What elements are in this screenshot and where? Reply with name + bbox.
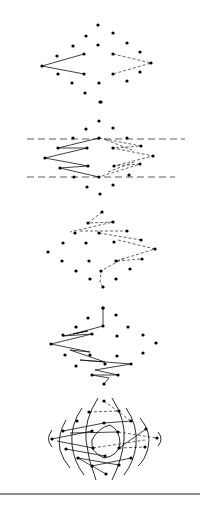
lattice-dot [97, 175, 100, 178]
lattice-dot [103, 454, 106, 457]
lattice-dot [155, 436, 158, 439]
curved-contour [59, 420, 70, 468]
lattice-dot [144, 427, 147, 430]
lattice-dot [90, 464, 93, 467]
solid-connector [70, 432, 118, 433]
lattice-dot [101, 285, 104, 288]
lattice-dot [82, 52, 85, 55]
lattice-dot [114, 313, 117, 316]
solid-connector [57, 441, 93, 448]
lattice-dot [63, 353, 66, 356]
solid-connector [92, 458, 131, 466]
lattice-dot [90, 373, 93, 376]
lattice-dot [141, 333, 144, 336]
lattice-dot [71, 44, 74, 47]
lattice-dot [127, 173, 130, 176]
solid-connector [66, 449, 105, 456]
panel-3 [46, 210, 156, 309]
lattice-dot [84, 241, 87, 244]
lattice-dot [114, 259, 117, 262]
lattice-dot [96, 23, 99, 26]
lattice-dot [128, 267, 131, 270]
dot-lattice-diagram [0, 0, 200, 505]
lattice-dot [91, 446, 94, 449]
diagram-figure [0, 0, 200, 505]
lattice-dot [111, 31, 114, 34]
solid-connector [51, 308, 131, 384]
panel-4 [49, 306, 157, 385]
lattice-dot [126, 325, 129, 328]
lattice-dot [111, 72, 114, 75]
lattice-dot [43, 156, 46, 159]
lattice-dot [125, 79, 128, 82]
lattice-dot [111, 183, 114, 186]
lattice-dot [111, 220, 114, 223]
lattice-dot [116, 373, 119, 376]
lattice-dot [88, 277, 91, 280]
solid-connector [104, 421, 131, 423]
lattice-dot [139, 144, 142, 147]
dashed-connector [116, 240, 155, 261]
dashed-connector [89, 411, 119, 412]
curved-contour [92, 425, 120, 458]
lattice-dot [85, 146, 88, 149]
dashed-connector [99, 138, 153, 177]
panel-2 [27, 100, 185, 195]
lattice-dot [82, 72, 85, 75]
lattice-dot [101, 306, 104, 309]
lattice-dot [49, 342, 52, 345]
lattice-dot [151, 154, 154, 157]
lattice-dot [115, 354, 118, 357]
lattice-dot [97, 81, 100, 84]
lattice-dot [153, 247, 156, 250]
lattice-dot [83, 91, 86, 94]
dashed-connector [108, 162, 134, 172]
lattice-dot [117, 463, 120, 466]
lattice-dot [112, 164, 115, 167]
lattice-dot [102, 382, 105, 385]
lattice-dot [90, 332, 93, 335]
lattice-dot [100, 210, 103, 213]
lattice-dot [101, 324, 104, 327]
lattice-dot [61, 333, 64, 336]
lattice-dot [141, 351, 144, 354]
lattice-dot [70, 81, 73, 84]
panel-5 [49, 398, 162, 480]
lattice-dot [149, 61, 152, 64]
lattice-dot [114, 277, 117, 280]
lattice-dot [139, 238, 142, 241]
dashed-connector [113, 54, 151, 74]
lattice-dot [117, 409, 120, 412]
lattice-dot [74, 325, 77, 328]
lattice-dot [97, 119, 100, 122]
lattice-dot [87, 259, 90, 262]
lattice-dot [104, 472, 107, 475]
lattice-dot [129, 362, 132, 365]
lattice-dot [125, 229, 128, 232]
lattice-dot [103, 362, 106, 365]
lattice-dot [102, 399, 105, 402]
lattice-dot [138, 50, 141, 53]
curved-contour [72, 408, 84, 475]
lattice-dot [61, 241, 64, 244]
lattice-dot [117, 446, 120, 449]
lattice-dot [72, 175, 75, 178]
lattice-dot [96, 43, 99, 46]
lattice-dot [46, 250, 49, 253]
lattice-dot [129, 419, 132, 422]
lattice-dot [84, 127, 87, 130]
lattice-dot [84, 34, 87, 37]
lattice-dot [56, 146, 59, 149]
lattice-dot [102, 421, 105, 424]
lattice-dot [97, 136, 100, 139]
curved-contour [86, 398, 98, 480]
lattice-dot [111, 52, 114, 55]
lattice-dot [111, 126, 114, 129]
lattice-dot [116, 430, 119, 433]
lattice-dot [56, 72, 59, 75]
lattice-dot [140, 257, 143, 260]
lattice-dot [115, 334, 118, 337]
lattice-dot [88, 353, 91, 356]
lattice-dot [111, 146, 114, 149]
lattice-dot [90, 429, 93, 432]
